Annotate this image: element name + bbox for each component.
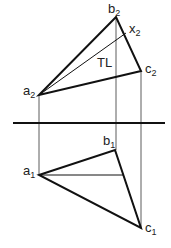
triangle-view-2 [39, 17, 141, 95]
label-b2: b2 [108, 1, 120, 18]
label-x2: x2 [129, 21, 141, 38]
label-a1: a1 [23, 163, 35, 180]
label-c2: c2 [145, 61, 157, 78]
label-b1: b1 [103, 133, 115, 150]
label-c1: c1 [145, 220, 157, 237]
triangle-view-1 [39, 150, 141, 228]
descriptive-geometry-diagram: b2 x2 TL c2 a2 b1 a1 c1 [0, 0, 171, 248]
label-tl: TL [97, 55, 112, 70]
label-a2: a2 [23, 83, 35, 100]
